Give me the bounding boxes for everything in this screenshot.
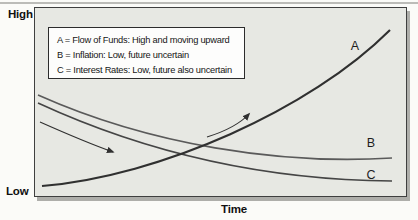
curve-a-label: A: [351, 39, 360, 53]
curve-b-label: B: [367, 136, 375, 150]
legend-item-b: B = Inflation: Low, future uncertain: [57, 48, 241, 63]
trend-arrow-down-icon: [40, 122, 113, 152]
legend-item-c: C = Interest Rates: Low, future also unc…: [57, 63, 241, 78]
legend-item-a: A = Flow of Funds: High and moving upwar…: [57, 33, 241, 48]
trend-arrow-up-icon: [207, 114, 249, 137]
x-axis-label: Time: [203, 203, 265, 215]
curve-b-inflation: [38, 95, 392, 159]
curve-c-label: C: [366, 168, 375, 182]
legend-box: A = Flow of Funds: High and moving upwar…: [48, 27, 245, 79]
figure-canvas: High A B C A = Flow of Funds: High and m…: [0, 0, 418, 220]
y-axis-low-label: Low: [6, 185, 28, 197]
curve-c-interest-rates: [38, 103, 392, 181]
